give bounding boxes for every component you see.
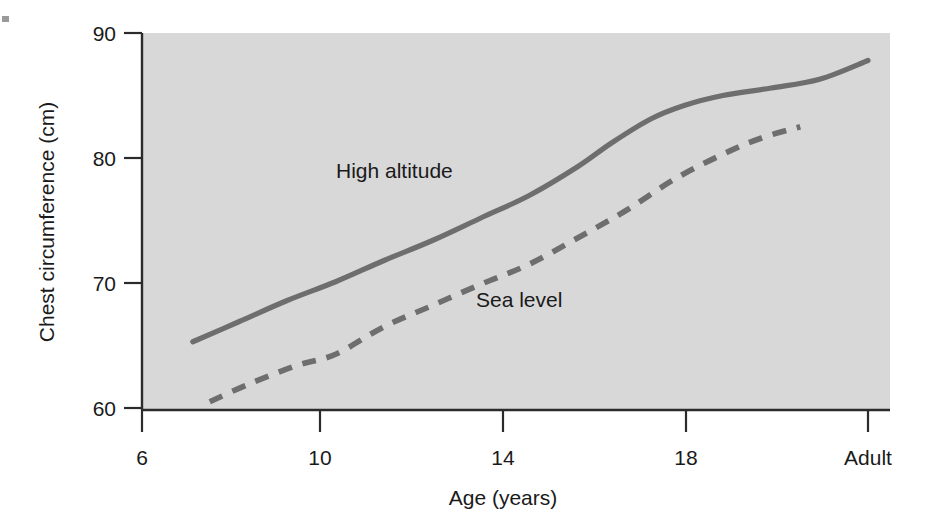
y-tick-label-90: 90 — [93, 22, 116, 45]
x-tick-label-6: 6 — [136, 446, 148, 469]
x-tick-label-18: 18 — [674, 446, 697, 469]
chart-canvas: 90 80 70 60 6 10 14 18 Adult Age (years)… — [0, 0, 927, 523]
x-tick-label-adult: Adult — [844, 446, 892, 469]
y-axis-title: Chest circumference (cm) — [35, 102, 58, 342]
y-tick-label-60: 60 — [93, 397, 116, 420]
scan-edge-mark — [2, 16, 9, 22]
chart-figure: 90 80 70 60 6 10 14 18 Adult Age (years)… — [0, 0, 927, 523]
y-axis-ticks — [124, 33, 142, 408]
x-axis-ticks — [142, 410, 868, 432]
series-label-sea-level: Sea level — [476, 288, 562, 311]
series-label-high-altitude: High altitude — [336, 159, 453, 182]
x-tick-label-10: 10 — [308, 446, 331, 469]
x-axis-title: Age (years) — [449, 486, 558, 509]
x-tick-label-14: 14 — [491, 446, 515, 469]
y-tick-label-80: 80 — [93, 147, 116, 170]
y-tick-label-70: 70 — [93, 272, 116, 295]
